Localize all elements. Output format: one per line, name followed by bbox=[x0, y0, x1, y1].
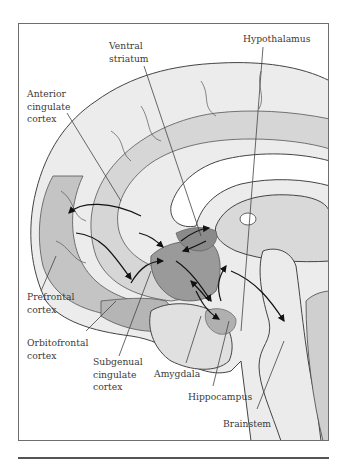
label-prefrontal-cortex: Prefrontal cortex bbox=[27, 291, 74, 316]
label-subgenual-cingulate-cortex: Subgenual cingulate cortex bbox=[93, 356, 143, 394]
figure-frame: Ventral striatum Hypothalamus Anterior c… bbox=[18, 23, 329, 441]
label-brainstem: Brainstem bbox=[223, 418, 271, 431]
interthalamic-adhesion bbox=[240, 213, 256, 225]
label-anterior-cingulate-cortex: Anterior cingulate cortex bbox=[27, 88, 70, 126]
bottom-rule bbox=[18, 457, 329, 459]
label-ventral-striatum: Ventral striatum bbox=[109, 40, 149, 65]
label-orbitofrontal-cortex: Orbitofrontal cortex bbox=[27, 337, 88, 362]
label-hypothalamus: Hypothalamus bbox=[243, 33, 310, 46]
label-amygdala: Amygdala bbox=[154, 368, 200, 381]
label-hippocampus: Hippocampus bbox=[188, 391, 252, 404]
